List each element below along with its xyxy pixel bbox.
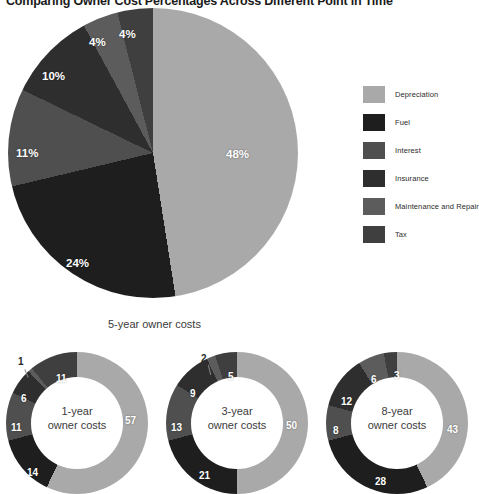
donut-label-fuel: 28 — [375, 476, 386, 487]
donut-label-depreciation: 57 — [125, 415, 136, 426]
main-pie-caption: 5-year owner costs — [108, 318, 201, 330]
pie-slice-label-interest: 11% — [16, 147, 38, 159]
donut-label-depreciation: 50 — [286, 420, 297, 431]
legend-item-depreciation[interactable]: Depreciation — [362, 80, 474, 108]
donut-center-label: 3-year owner costs — [186, 404, 288, 432]
pie-slice-label-maintenance: 4% — [89, 36, 106, 48]
donut-chart-8-year: 8-year owner costs 43 28 8 12 6 3 — [326, 352, 468, 494]
donut-chart-1-year: 1-year owner costs 57 14 11 6 1 11 — [6, 352, 148, 494]
donut-label-tax: 3 — [394, 370, 400, 381]
legend-swatch-icon — [362, 225, 386, 244]
donut-chart-3-year: 3-year owner costs 50 21 13 9 2 5 — [166, 352, 308, 494]
donut-title-line1: 8-year — [346, 404, 448, 418]
pie-slice-label-tax: 4% — [119, 28, 136, 40]
donut-label-fuel: 21 — [199, 470, 210, 481]
legend-item-fuel[interactable]: Fuel — [362, 108, 474, 136]
pie-slice-label-fuel: 24% — [66, 257, 89, 269]
donut-label-depreciation: 43 — [447, 424, 458, 435]
donut-label-tax: 11 — [56, 373, 67, 384]
legend-item-maintenance-and-repair[interactable]: Maintenance and Repair — [362, 192, 474, 220]
legend-item-interest[interactable]: Interest — [362, 136, 474, 164]
legend-item-tax[interactable]: Tax — [362, 220, 474, 248]
donut-label-insurance: 6 — [21, 393, 27, 404]
donut-title-line2: owner costs — [186, 418, 288, 432]
donut-label-maintenance: 1 — [18, 356, 24, 367]
legend-swatch-icon — [362, 113, 386, 132]
legend-label: Insurance — [395, 174, 429, 183]
donut-center-label: 1-year owner costs — [26, 404, 128, 432]
donut-label-tax: 5 — [228, 371, 234, 382]
donut-label-interest: 11 — [11, 422, 22, 433]
main-pie-chart: 48% 24% 11% 10% 4% 4% — [8, 8, 298, 298]
donut-title-line2: owner costs — [26, 418, 128, 432]
donut-title-line1: 1-year — [26, 404, 128, 418]
donut-label-interest: 8 — [333, 425, 339, 436]
legend-item-insurance[interactable]: Insurance — [362, 164, 474, 192]
donut-label-insurance: 12 — [341, 396, 352, 407]
page-title: Comparing Owner Cost Percentages Across … — [6, 0, 476, 8]
legend-label: Interest — [395, 146, 421, 155]
legend-swatch-icon — [362, 169, 386, 188]
donut-center-label: 8-year owner costs — [346, 404, 448, 432]
donut-title-line1: 3-year — [186, 404, 288, 418]
donut-label-maintenance: 2 — [201, 353, 207, 364]
pie-slice-label-depreciation: 48% — [226, 148, 249, 160]
donut-title-line2: owner costs — [346, 418, 448, 432]
legend-label: Depreciation — [395, 90, 438, 99]
donut-label-interest: 13 — [171, 422, 182, 433]
donut-label-insurance: 9 — [190, 388, 196, 399]
main-pie-disc — [8, 8, 298, 298]
legend-swatch-icon — [362, 141, 386, 160]
donut-label-fuel: 14 — [27, 467, 38, 478]
legend-swatch-icon — [362, 197, 386, 216]
legend: Depreciation Fuel Interest Insurance Mai… — [362, 80, 474, 248]
donut-label-maintenance: 6 — [371, 374, 377, 385]
legend-label: Tax — [395, 230, 407, 239]
donut-charts-row: 1-year owner costs 57 14 11 6 1 11 3-yea… — [0, 352, 475, 492]
legend-label: Fuel — [395, 118, 410, 127]
legend-swatch-icon — [362, 85, 386, 104]
legend-label: Maintenance and Repair — [395, 202, 479, 211]
pie-slice-label-insurance: 10% — [42, 70, 65, 82]
